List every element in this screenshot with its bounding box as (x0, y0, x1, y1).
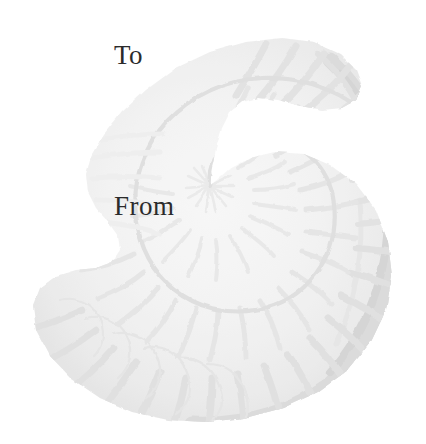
suture-lines (60, 299, 249, 430)
whorl-boundary-spirals (135, 78, 420, 312)
outer-whorl-ribs-upper (236, 44, 410, 224)
gift-tag-canvas: To From (0, 0, 426, 444)
outer-rim-band (192, 54, 394, 424)
second-whorl-ribs (82, 88, 356, 360)
shell-body (33, 38, 392, 422)
from-label: From (114, 193, 175, 220)
ammonite-fossil-illustration (0, 0, 426, 444)
umbilicus-ribs (186, 166, 234, 212)
to-label: To (114, 42, 143, 69)
outer-whorl-ribs-lower (26, 248, 408, 438)
